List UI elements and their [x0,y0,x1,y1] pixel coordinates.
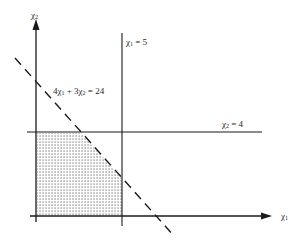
label-4x1-3x2-eq-24: 4χ1 + 3χ2 = 24 [53,86,104,98]
x-axis-label-sub: 1 [285,215,288,221]
label-x2-eq-4: χ2 = 4 [222,119,243,131]
x-axis-arrow-icon [261,213,272,220]
label-x1-eq-5-rest: = 5 [133,37,147,47]
label-diag-prefix: 4χ [53,86,62,96]
lp-feasible-region-diagram [0,0,301,241]
y-axis-label-sub: 2 [35,14,38,20]
label-x1-eq-5: χ1 = 5 [126,37,147,49]
feasible-region [37,133,122,216]
label-diag-mid: + 3χ [65,86,83,96]
x-axis-label: χ1 [281,211,288,223]
label-x2-eq-4-rest: = 4 [229,119,243,129]
label-diag-rest: = 24 [86,86,105,96]
y-axis-label: χ2 [31,10,38,22]
